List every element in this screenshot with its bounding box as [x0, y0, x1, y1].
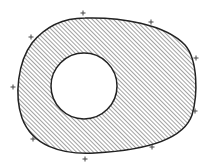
circular-hole	[51, 53, 117, 119]
plus-mark	[194, 56, 199, 61]
plus-mark	[81, 11, 86, 16]
plus-mark	[29, 35, 34, 40]
plus-mark	[83, 157, 88, 162]
plus-mark	[11, 85, 16, 90]
diagram-canvas	[0, 0, 210, 166]
plus-mark	[149, 20, 154, 25]
